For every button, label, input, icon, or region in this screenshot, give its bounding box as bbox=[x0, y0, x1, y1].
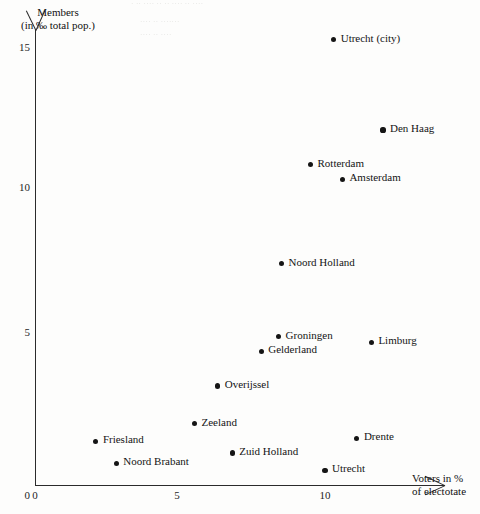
y-axis-title: Members (in ‰ total pop.) bbox=[2, 6, 114, 32]
data-point-label: Friesland bbox=[103, 433, 144, 445]
data-point-marker bbox=[279, 261, 284, 266]
data-point-marker bbox=[308, 162, 313, 167]
data-point-label: Noord Brabant bbox=[123, 455, 189, 467]
y-axis-line bbox=[35, 30, 36, 486]
data-point-marker bbox=[276, 334, 281, 339]
y-axis-title-line2: (in ‰ total pop.) bbox=[2, 19, 114, 32]
data-point-label: Utrecht bbox=[332, 462, 365, 474]
y-axis-title-line1: Members bbox=[2, 6, 114, 19]
data-point-label: Noord Holland bbox=[289, 256, 355, 268]
data-point-marker bbox=[215, 383, 220, 388]
x-axis-line bbox=[35, 485, 445, 486]
data-point-label: Den Haag bbox=[390, 122, 434, 134]
data-point-label: Limburg bbox=[378, 334, 416, 346]
bleed-through-text-3: ···· ·· ···· bbox=[140, 31, 172, 39]
y-tick-10: 10 bbox=[8, 181, 30, 193]
y-tick-15: 15 bbox=[8, 41, 30, 53]
data-point-marker bbox=[322, 468, 327, 473]
data-point-label: Drente bbox=[364, 430, 394, 442]
data-point-marker bbox=[369, 340, 374, 345]
x-tick-5: 5 bbox=[165, 489, 189, 501]
data-point-marker bbox=[230, 450, 235, 455]
data-point-label: Gelderland bbox=[268, 343, 317, 355]
data-point-label: Utrecht (city) bbox=[341, 32, 401, 44]
x-tick-0: 0 bbox=[23, 489, 47, 501]
data-point-marker bbox=[259, 349, 264, 354]
data-point-label: Rotterdam bbox=[318, 157, 364, 169]
data-point-label: Overijssel bbox=[225, 378, 270, 390]
scatter-plot-figure: · ·· ···· ·· ·· ···· ·· ···· ···· ·· ···… bbox=[0, 0, 480, 514]
data-point-marker bbox=[380, 127, 385, 132]
data-point-label: Zuid Holland bbox=[239, 445, 298, 457]
x-axis-title: Voters in % of electotate bbox=[412, 472, 466, 498]
y-tick-5: 5 bbox=[8, 326, 30, 338]
data-point-marker bbox=[354, 436, 359, 441]
x-axis-title-line2: of electotate bbox=[412, 485, 466, 498]
data-point-label: Zeeland bbox=[202, 416, 237, 428]
data-point-label: Amsterdam bbox=[349, 171, 400, 183]
bleed-through-text-1: · ·· ···· ·· ·· ···· ·· ···· bbox=[131, 0, 203, 8]
data-point-label: Groningen bbox=[286, 329, 333, 341]
x-tick-10: 10 bbox=[313, 489, 337, 501]
bleed-through-text-2: ···· ·· ······· bbox=[140, 18, 180, 26]
data-point-marker bbox=[114, 461, 119, 466]
data-point-marker bbox=[331, 37, 336, 42]
data-point-marker bbox=[93, 439, 98, 444]
data-point-marker bbox=[192, 421, 197, 426]
data-point-marker bbox=[340, 177, 345, 182]
x-axis-title-line1: Voters in % bbox=[412, 472, 466, 485]
